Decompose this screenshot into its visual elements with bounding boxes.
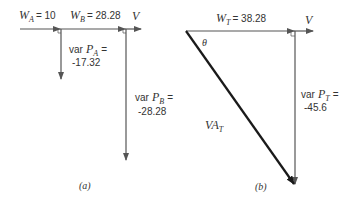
var-p-t-value: -45.6 [304,102,327,113]
v-label-a: V [132,9,141,23]
w-t-label: WT= 38.28 [216,11,267,27]
va-t-label: VAT [205,118,224,134]
var-p-a-value: -17.32 [72,57,101,68]
var-p-t-label: varPT= [301,87,339,103]
va-t-vector [186,31,294,184]
caption-b: (b) [255,181,267,193]
var-p-a-label: varPA= [69,42,107,58]
var-p-b-label: varPB= [135,90,173,106]
w-a-label: WA= 10 [19,8,56,24]
caption-a: (a) [79,180,91,192]
panel-a: WA= 10 WB= 28.28 V varPA= -17.32 varPB= … [19,8,173,192]
panel-b: WT= 38.28 V θ VAT varPT= -45.6 (b) [186,11,339,193]
w-b-label: WB= 28.28 [70,8,121,24]
phasor-diagram: WA= 10 WB= 28.28 V varPA= -17.32 varPB= … [0,0,350,200]
v-label-b: V [305,13,314,27]
theta-label: θ [202,37,207,48]
var-p-b-value: -28.28 [138,106,167,117]
